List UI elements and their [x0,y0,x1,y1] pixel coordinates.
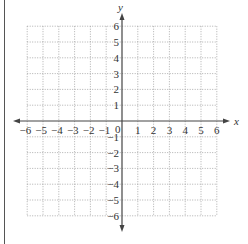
y-axis-label: y [117,1,123,13]
y-tick-label: −4 [107,178,119,190]
axes [13,13,230,232]
x-tick-label: 4 [182,124,188,136]
y-tick-label: 1 [114,99,120,111]
y-tick-label: 2 [114,83,120,95]
x-tick-label: 6 [214,124,220,136]
y-tick-label: −2 [107,147,119,159]
y-tick-label: 5 [114,36,120,48]
x-axis-right-arrow-icon [223,119,230,124]
x-tick-label: −6 [19,124,31,136]
x-tick-label: −3 [67,124,79,136]
y-tick-label: −3 [107,162,119,174]
y-tick-label: 6 [114,20,120,32]
x-axis-label: x [233,115,239,127]
y-tick-label: 4 [114,52,120,64]
x-tick-label: −4 [51,124,63,136]
x-tick-label: 5 [198,124,204,136]
y-axis-top-arrow-icon [120,13,125,20]
y-tick-label: −1 [107,131,119,143]
x-tick-label: 2 [151,124,157,136]
coordinate-plane: x y 0 −6−5−4−3−2−1123456 123456−1−2−3−4−… [0,0,248,244]
y-axis-bottom-arrow-icon [120,225,125,232]
x-tick-label: −5 [35,124,47,136]
x-tick-label: −2 [83,124,95,136]
x-tick-label: 1 [135,124,141,136]
x-axis-left-arrow-icon [13,119,20,124]
y-tick-label: −5 [107,194,119,206]
y-tick-label: 3 [114,68,120,80]
y-tick-label: −6 [107,210,119,222]
x-tick-label: 3 [167,124,173,136]
